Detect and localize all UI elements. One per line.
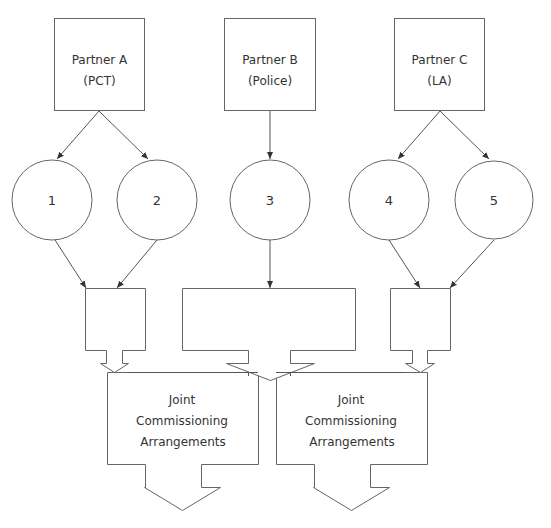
pool-middle-box — [183, 289, 356, 381]
svg-text:4: 4 — [385, 193, 393, 208]
partner-b-name: Partner B — [242, 53, 298, 67]
joint-box-2-line2: Commissioning — [305, 414, 397, 428]
arrow-5-to-pool-right — [450, 240, 494, 288]
arrow-a-to-2 — [99, 111, 148, 159]
joint-box-2-line3: Arrangements — [309, 435, 394, 449]
circle-5: 5 — [455, 161, 533, 239]
joint-box-2-line1: Joint — [337, 393, 365, 407]
joint-box-1-line3: Arrangements — [140, 435, 225, 449]
arrow-a-to-1 — [57, 111, 99, 159]
partner-c-name: Partner C — [412, 53, 468, 67]
pool-right-box — [391, 289, 451, 373]
joint-box-1-line1: Joint — [168, 393, 196, 407]
svg-text:3: 3 — [266, 193, 274, 208]
pool-left-box — [86, 289, 146, 373]
arrow-1-to-pool-left — [55, 240, 86, 288]
svg-text:5: 5 — [490, 193, 498, 208]
partner-c-box: Partner C (LA) — [395, 19, 485, 111]
joint-box-1-line2: Commissioning — [136, 414, 228, 428]
arrow-c-to-4 — [398, 111, 440, 159]
circle-1: 1 — [12, 160, 92, 240]
partner-a-org: (PCT) — [83, 74, 115, 88]
svg-text:2: 2 — [153, 193, 161, 208]
joint-box-2: Joint Commissioning Arrangements — [277, 373, 428, 511]
arrow-2-to-pool-left — [117, 240, 157, 288]
partner-b-box: Partner B (Police) — [225, 19, 316, 111]
circle-2: 2 — [117, 160, 197, 240]
partner-c-org: (LA) — [427, 74, 452, 88]
circle-3: 3 — [230, 160, 310, 240]
partner-b-org: (Police) — [248, 74, 292, 88]
arrow-4-to-pool-right — [389, 240, 420, 288]
partner-a-name: Partner A — [72, 53, 128, 67]
arrow-c-to-5 — [440, 111, 489, 159]
joint-box-1: Joint Commissioning Arrangements — [108, 373, 259, 511]
commissioning-diagram: Partner A (PCT) Partner B (Police) Partn… — [0, 0, 551, 528]
svg-text:1: 1 — [48, 193, 56, 208]
circle-4: 4 — [349, 160, 429, 240]
partner-a-box: Partner A (PCT) — [55, 19, 145, 111]
